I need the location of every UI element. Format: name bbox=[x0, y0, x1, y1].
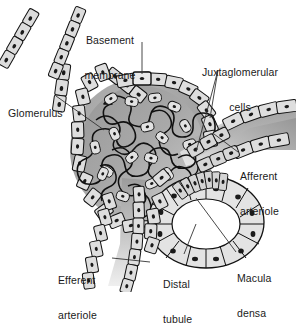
label-glomerulus-line1: Glomerulus bbox=[8, 108, 63, 120]
label-glomerulus: Glomerulus bbox=[8, 85, 63, 131]
label-basement-membrane: Basement membrane bbox=[66, 12, 154, 93]
label-macula-densa-line2: densa bbox=[237, 308, 271, 320]
label-juxtaglomerular-cells: Juxtaglomerular cells bbox=[184, 44, 296, 125]
label-basement-membrane-line2: membrane bbox=[66, 70, 154, 82]
label-efferent-arteriole-line2: arteriole bbox=[58, 310, 97, 322]
label-efferent-arteriole: Efferent arteriole bbox=[58, 252, 97, 327]
label-distal-tubule-line1: Distal bbox=[163, 279, 192, 291]
label-distal-tubule: Distal tubule bbox=[163, 256, 192, 327]
label-juxtaglomerular-cells-line2: cells bbox=[184, 102, 296, 114]
label-macula-densa: Macula densa bbox=[237, 250, 271, 327]
label-efferent-arteriole-line1: Efferent bbox=[58, 275, 97, 287]
label-juxtaglomerular-cells-line1: Juxtaglomerular bbox=[184, 67, 296, 79]
label-basement-membrane-line1: Basement bbox=[66, 35, 154, 47]
label-afferent-arteriole-line1: Afferent bbox=[240, 171, 279, 183]
label-afferent-arteriole: Afferent arteriole bbox=[240, 148, 279, 229]
label-distal-tubule-line2: tubule bbox=[163, 314, 192, 326]
label-afferent-arteriole-line2: arteriole bbox=[240, 206, 279, 218]
label-macula-densa-line1: Macula bbox=[237, 273, 271, 285]
